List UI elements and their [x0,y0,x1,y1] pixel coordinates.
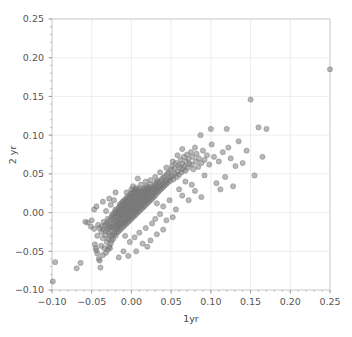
x-tick-label: 0.20 [280,296,301,307]
data-point [202,173,207,178]
data-point [186,198,191,203]
data-point [204,153,209,158]
data-point [256,125,261,130]
x-tick-label: 0.25 [319,296,340,307]
data-point [236,139,241,144]
data-point [121,249,126,254]
data-point [161,204,166,209]
data-point [95,251,100,256]
y-tick-label: 0.10 [23,130,44,141]
data-point [209,142,214,147]
data-point [224,126,229,131]
data-point [192,145,197,150]
data-point [98,265,103,270]
y-tick-label: 0.05 [23,168,44,179]
data-point [260,154,265,159]
data-point [111,198,116,203]
plot-canvas: −0.10−0.050.000.050.100.150.200.25 −0.10… [0,0,352,337]
data-point [175,153,180,158]
data-point [198,133,203,138]
data-point [244,148,249,153]
data-point [252,173,257,178]
y-tick-label: −0.05 [15,246,44,257]
data-point [126,253,131,258]
data-point [248,97,253,102]
data-point [173,207,178,212]
x-tick-label: 0.00 [121,296,142,307]
data-point [228,156,233,161]
data-point [74,266,79,271]
x-tick-label: −0.10 [37,296,66,307]
data-point [138,182,143,187]
data-point [167,198,172,203]
x-tick-label: 0.15 [240,296,261,307]
data-point [145,244,150,249]
data-point [154,201,159,206]
data-point [97,258,102,263]
data-point [154,232,159,237]
data-point [264,126,269,131]
data-point [149,221,154,226]
data-point [108,202,113,207]
data-point [223,174,228,179]
data-point [137,230,142,235]
data-point [327,67,332,72]
data-point [183,179,188,184]
data-point [113,190,118,195]
data-point [50,279,55,284]
data-point [216,159,221,164]
data-point [78,260,83,265]
data-point [153,216,158,221]
y-tick-label: 0.00 [23,207,44,218]
data-point [134,249,139,254]
data-point [164,218,169,223]
y-tick-label: 0.25 [23,13,44,24]
data-point [124,190,129,195]
y-tick-label: 0.15 [23,91,44,102]
data-point [135,176,140,181]
data-point [127,239,132,244]
data-point [211,154,216,159]
data-point [192,188,197,193]
y-axis-title: 2 yr [7,146,18,165]
data-point [157,170,162,175]
data-point [199,194,204,199]
data-point [89,218,94,223]
data-point [143,179,148,184]
data-point [226,145,231,150]
data-point [180,146,185,151]
data-point [143,225,148,230]
data-point [164,165,169,170]
y-tick-label: −0.10 [15,284,44,295]
data-point [220,150,225,155]
data-point [170,215,175,220]
data-point [122,233,127,238]
data-point [103,208,108,213]
data-point [157,211,162,216]
data-point [176,187,181,192]
x-axis-title: 1yr [183,313,199,324]
data-point [189,182,194,187]
data-point [200,148,205,153]
data-point [240,160,245,165]
data-point [233,163,238,168]
data-point [140,241,145,246]
data-point [180,193,185,198]
data-point [208,126,213,131]
data-point [94,204,99,209]
data-point [132,235,137,240]
data-point [148,238,153,243]
data-point [161,227,166,232]
data-point [214,181,219,186]
data-point [100,199,105,204]
data-point [170,159,175,164]
x-tick-label: −0.05 [77,296,106,307]
data-point [53,260,58,265]
data-point [130,184,135,189]
x-tick-label: 0.10 [200,296,221,307]
data-point [207,162,212,167]
y-tick-label: 0.20 [23,52,44,63]
data-point [230,184,235,189]
x-tick-label: 0.05 [161,296,182,307]
scatter-plot-figure: −0.10−0.050.000.050.100.150.200.25 −0.10… [0,0,352,337]
